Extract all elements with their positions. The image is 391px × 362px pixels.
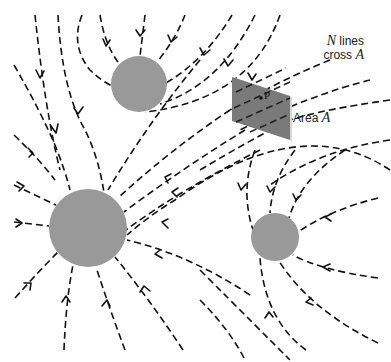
charge-right <box>251 213 299 261</box>
point-p-label: P <box>264 89 270 101</box>
area-plate <box>232 68 292 142</box>
n-symbol: N <box>327 33 336 48</box>
a-symbol: A <box>355 47 364 62</box>
cross-text: cross <box>323 48 355 62</box>
area-a-label: Area A <box>293 111 330 125</box>
area-text: Area <box>293 111 322 125</box>
lines-cross-label: N lines cross A <box>306 34 364 62</box>
lines-text: lines <box>336 34 364 48</box>
charge-large-left <box>49 189 127 267</box>
point-p-text: P <box>264 89 270 101</box>
charge-top <box>111 56 167 112</box>
arrowheads <box>16 30 331 318</box>
area-symbol: A <box>322 110 331 125</box>
point-p-dot <box>259 96 263 100</box>
